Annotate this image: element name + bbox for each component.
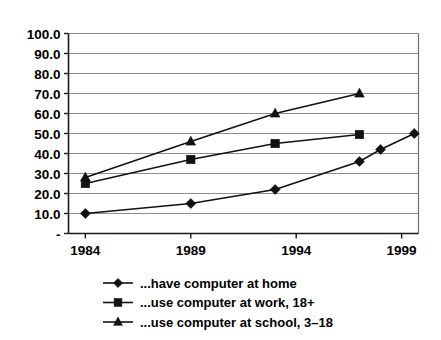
data-point-square-marker — [114, 299, 122, 307]
y-axis-tick-label: 50.0 — [34, 127, 60, 142]
data-point-diamond-marker — [113, 278, 122, 287]
series-3 — [81, 88, 365, 181]
x-axis-tick-label: 1984 — [70, 243, 101, 258]
chart-legend: ...have computer at home...use computer … — [103, 276, 333, 330]
data-point-diamond-marker — [409, 129, 419, 139]
legend-item-3: ...use computer at school, 3–18 — [103, 315, 333, 330]
legend-item-label: ...have computer at home — [140, 276, 297, 291]
y-axis-tick-label: 20.0 — [34, 187, 60, 202]
y-axis-tick-label: 100.0 — [27, 27, 61, 42]
legend-item-label: ...use computer at school, 3–18 — [140, 315, 333, 330]
data-point-triangle-marker — [355, 88, 365, 97]
x-axis-tick-label: 1994 — [281, 243, 312, 258]
data-point-square-marker — [355, 130, 363, 138]
y-axis-tick-label: 90.0 — [34, 47, 60, 62]
data-point-diamond-marker — [354, 157, 364, 167]
legend-item-1: ...have computer at home — [103, 276, 297, 291]
legend-item-2: ...use computer at work, 18+ — [103, 295, 315, 310]
x-axis-tick-label: 1989 — [176, 243, 206, 258]
y-axis-tick-label: 40.0 — [34, 147, 60, 162]
x-axis-tick-label: 1999 — [387, 243, 417, 258]
y-axis-tick-label: 70.0 — [34, 87, 60, 102]
x-axis-ticks: 1984198919941999 — [70, 234, 416, 258]
series-line — [85, 94, 359, 178]
series-line — [85, 135, 359, 184]
y-axis-tick-label: 80.0 — [34, 67, 60, 82]
data-point-diamond-marker — [186, 199, 196, 209]
legend-item-label: ...use computer at work, 18+ — [140, 295, 315, 310]
data-point-diamond-marker — [80, 209, 90, 219]
y-axis-tick-label: - — [56, 227, 61, 242]
y-axis-tick-label: 10.0 — [34, 207, 60, 222]
data-point-square-marker — [187, 155, 195, 163]
data-point-square-marker — [271, 139, 279, 147]
y-axis-tick-label: 60.0 — [34, 107, 60, 122]
line-chart: -10.020.030.040.050.060.070.080.090.0100… — [0, 0, 441, 340]
y-axis-tick-label: 30.0 — [34, 167, 60, 182]
chart-canvas: -10.020.030.040.050.060.070.080.090.0100… — [0, 0, 441, 340]
y-axis-ticks: -10.020.030.040.050.060.070.080.090.0100… — [27, 27, 69, 242]
series-2 — [81, 130, 363, 187]
